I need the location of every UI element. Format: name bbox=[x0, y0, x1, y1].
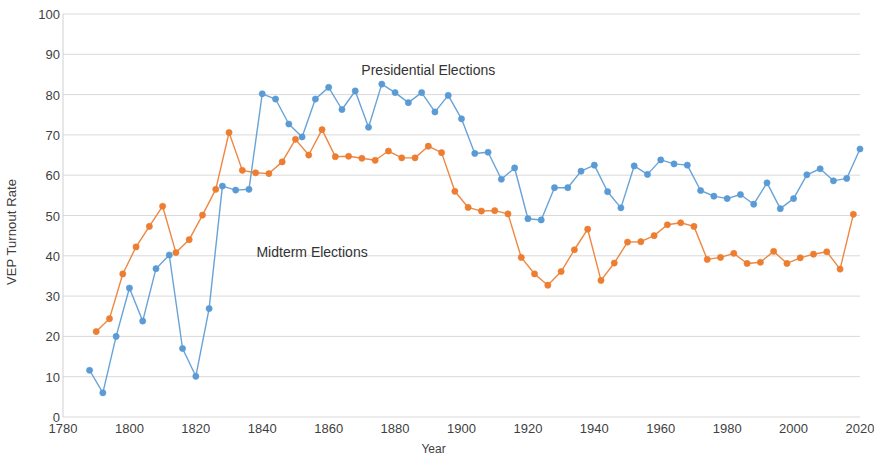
data-point bbox=[452, 188, 458, 194]
data-point bbox=[120, 271, 126, 277]
data-point bbox=[186, 237, 192, 243]
data-point bbox=[605, 189, 611, 195]
data-point bbox=[458, 116, 464, 122]
data-point bbox=[419, 89, 425, 95]
data-point bbox=[551, 185, 557, 191]
data-point bbox=[465, 204, 471, 210]
data-point bbox=[405, 100, 411, 106]
data-point bbox=[233, 187, 239, 193]
data-point bbox=[399, 155, 405, 161]
data-point bbox=[352, 88, 358, 94]
series-label-0: Presidential Elections bbox=[361, 62, 495, 78]
data-point bbox=[651, 233, 657, 239]
data-point bbox=[173, 249, 179, 255]
data-point bbox=[326, 84, 332, 90]
data-point bbox=[790, 195, 796, 201]
data-point bbox=[345, 153, 351, 159]
data-point bbox=[731, 250, 737, 256]
data-point bbox=[545, 282, 551, 288]
data-point bbox=[711, 193, 717, 199]
data-point bbox=[531, 271, 537, 277]
data-point bbox=[312, 96, 318, 102]
data-point bbox=[857, 146, 863, 152]
data-point bbox=[339, 106, 345, 112]
data-point bbox=[724, 195, 730, 201]
data-point bbox=[704, 256, 710, 262]
data-point bbox=[146, 223, 152, 229]
data-point bbox=[292, 136, 298, 142]
data-point bbox=[578, 168, 584, 174]
data-point bbox=[585, 226, 591, 232]
data-point bbox=[837, 266, 843, 272]
data-point bbox=[638, 239, 644, 245]
data-point bbox=[671, 161, 677, 167]
data-point bbox=[498, 176, 504, 182]
data-point bbox=[106, 316, 112, 322]
data-point bbox=[385, 148, 391, 154]
data-point bbox=[678, 220, 684, 226]
data-point bbox=[830, 178, 836, 184]
data-point bbox=[113, 333, 119, 339]
data-point bbox=[525, 216, 531, 222]
data-point bbox=[591, 162, 597, 168]
data-point bbox=[784, 260, 790, 266]
data-point bbox=[565, 185, 571, 191]
data-point bbox=[279, 159, 285, 165]
data-point bbox=[797, 255, 803, 261]
data-point bbox=[160, 203, 166, 209]
data-point bbox=[717, 254, 723, 260]
data-point bbox=[771, 248, 777, 254]
data-point bbox=[306, 152, 312, 158]
data-point bbox=[206, 305, 212, 311]
data-point bbox=[432, 109, 438, 115]
data-point bbox=[365, 124, 371, 130]
x-axis-title: Year bbox=[0, 442, 867, 456]
data-point bbox=[598, 277, 604, 283]
series-line-0 bbox=[90, 84, 860, 393]
data-point bbox=[379, 81, 385, 87]
data-point bbox=[259, 91, 265, 97]
data-point bbox=[658, 157, 664, 163]
data-point bbox=[319, 127, 325, 133]
data-point bbox=[558, 268, 564, 274]
data-point bbox=[246, 186, 252, 192]
data-point bbox=[492, 208, 498, 214]
data-point bbox=[744, 260, 750, 266]
data-point bbox=[631, 163, 637, 169]
data-point bbox=[777, 206, 783, 212]
data-point bbox=[485, 149, 491, 155]
data-point bbox=[810, 251, 816, 257]
data-point bbox=[133, 244, 139, 250]
data-point bbox=[332, 154, 338, 160]
data-point bbox=[253, 170, 259, 176]
data-point bbox=[266, 170, 272, 176]
data-point bbox=[764, 180, 770, 186]
data-point bbox=[239, 167, 245, 173]
data-point bbox=[219, 183, 225, 189]
data-point bbox=[518, 254, 524, 260]
data-point bbox=[757, 259, 763, 265]
data-point bbox=[226, 129, 232, 135]
data-point bbox=[286, 121, 292, 127]
data-point bbox=[611, 260, 617, 266]
data-point bbox=[166, 252, 172, 258]
data-point bbox=[478, 208, 484, 214]
data-point bbox=[817, 166, 823, 172]
data-point bbox=[691, 223, 697, 229]
data-point bbox=[624, 239, 630, 245]
data-point bbox=[698, 187, 704, 193]
data-point bbox=[272, 96, 278, 102]
data-point bbox=[213, 186, 219, 192]
data-point bbox=[126, 285, 132, 291]
data-point bbox=[299, 134, 305, 140]
data-point bbox=[472, 150, 478, 156]
data-point bbox=[824, 249, 830, 255]
data-point bbox=[737, 191, 743, 197]
data-point bbox=[751, 201, 757, 207]
data-point bbox=[644, 171, 650, 177]
data-point bbox=[372, 157, 378, 163]
data-point bbox=[392, 89, 398, 95]
data-point bbox=[505, 211, 511, 217]
data-point bbox=[193, 373, 199, 379]
data-point bbox=[844, 175, 850, 181]
